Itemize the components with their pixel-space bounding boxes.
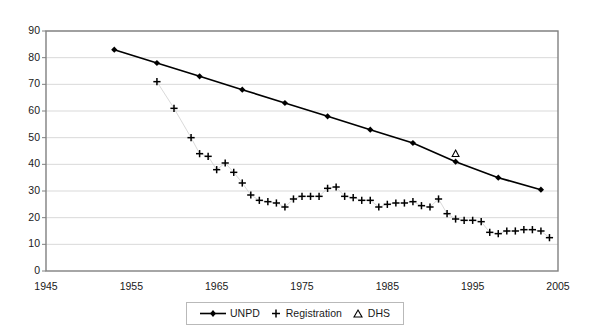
x-tick-label: 1975 [277, 280, 327, 292]
data-point-plus [443, 210, 450, 217]
y-tick-label: 0 [6, 264, 40, 276]
data-point-diamond [410, 140, 416, 146]
legend-item-dhs[interactable]: DHS [352, 308, 390, 319]
data-point-plus [213, 166, 220, 173]
data-point-plus [409, 198, 416, 205]
x-tick-label: 1995 [448, 280, 498, 292]
series-dhs [452, 150, 459, 156]
x-tick-label: 1965 [192, 280, 242, 292]
data-point-plus [367, 197, 374, 204]
data-point-plus [520, 226, 527, 233]
y-tick-label: 70 [6, 77, 40, 89]
x-tick-label: 1985 [362, 280, 412, 292]
y-tick-label: 60 [6, 104, 40, 116]
data-point-plus [239, 179, 246, 186]
data-point-plus [512, 227, 519, 234]
series-registration [153, 78, 553, 241]
data-point-plus [392, 199, 399, 206]
data-point-plus [401, 199, 408, 206]
data-point-diamond [282, 100, 288, 106]
chart-container: 0102030405060708090 19451955196519751985… [0, 0, 589, 331]
data-point-diamond [239, 87, 245, 93]
x-tick-label: 1945 [21, 280, 71, 292]
data-point-diamond [325, 113, 331, 119]
data-point-plus [247, 191, 254, 198]
data-point-plus [495, 230, 502, 237]
legend-marker-triangle-icon [352, 308, 364, 319]
plot-border [46, 31, 558, 271]
y-tick-label: 20 [6, 211, 40, 223]
x-tick-label: 1955 [106, 280, 156, 292]
data-point-plus [486, 229, 493, 236]
legend-marker-line-diamond-icon [200, 308, 226, 319]
legend-marker-plus-icon [270, 308, 282, 319]
data-point-diamond [495, 175, 501, 181]
y-tick-label: 80 [6, 51, 40, 63]
series-unpd [111, 47, 544, 193]
x-tick-label: 2005 [533, 280, 583, 292]
data-point-plus [503, 227, 510, 234]
data-point-diamond [538, 187, 544, 193]
data-point-diamond [154, 60, 160, 66]
y-tick-label: 90 [6, 24, 40, 36]
data-point-plus [298, 193, 305, 200]
y-tick-label: 30 [6, 184, 40, 196]
data-point-plus [546, 234, 553, 241]
data-point-plus [273, 199, 280, 206]
data-point-diamond [197, 73, 203, 79]
data-point-plus [537, 227, 544, 234]
legend-label-registration: Registration [286, 308, 342, 319]
y-tick-label: 50 [6, 131, 40, 143]
data-point-plus [256, 197, 263, 204]
data-point-plus [384, 201, 391, 208]
data-point-triangle [452, 150, 459, 156]
data-point-plus [358, 197, 365, 204]
y-tick-label: 10 [6, 237, 40, 249]
data-point-plus [350, 194, 357, 201]
chart-legend: UNPD Registration DHS [186, 302, 404, 325]
legend-item-registration[interactable]: Registration [270, 308, 342, 319]
data-point-plus [418, 202, 425, 209]
data-point-plus [264, 198, 271, 205]
data-point-plus [529, 226, 536, 233]
data-point-plus [375, 203, 382, 210]
data-point-diamond [367, 127, 373, 133]
data-point-plus [478, 218, 485, 225]
data-point-plus [187, 134, 194, 141]
legend-label-unpd: UNPD [230, 308, 260, 319]
data-point-plus [307, 193, 314, 200]
data-point-diamond [111, 47, 117, 53]
data-point-plus [452, 215, 459, 222]
data-point-plus [205, 153, 212, 160]
legend-label-dhs: DHS [368, 308, 390, 319]
legend-item-unpd[interactable]: UNPD [200, 308, 260, 319]
data-point-plus [196, 150, 203, 157]
y-tick-label: 40 [6, 157, 40, 169]
